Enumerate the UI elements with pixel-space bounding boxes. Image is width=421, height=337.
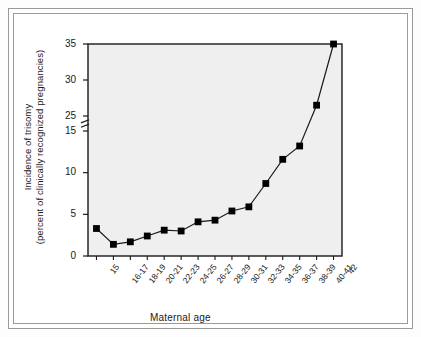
- y-axis-tick-label-30: 30: [50, 74, 76, 85]
- y-axis-tick-label-10: 10: [50, 166, 76, 177]
- data-point-15: 15: 3.3: [93, 225, 100, 232]
- data-point-18-19: 18-19: 1.7: [127, 238, 134, 245]
- data-point-36-37: 36-37: 11.6: [279, 156, 286, 163]
- data-point-22-23: 22-23: 3.1: [161, 227, 168, 234]
- data-point-34-35: 34-35: 8.7: [262, 180, 269, 187]
- data-point-40-41: 40-41: 26.5: [313, 102, 320, 109]
- data-point-30-31: 30-31: 5.4: [229, 208, 236, 215]
- y-axis-tick-label-0: 0: [50, 250, 76, 261]
- y-axis-tick-label-25: 25: [50, 110, 76, 121]
- y-axis-tick-label-15: 15: [50, 125, 76, 136]
- data-point-32-33: 32-33: 5.9: [245, 203, 252, 210]
- y-axis-tick-label-35: 35: [50, 38, 76, 49]
- figure-root: 15: 3.316-17: 1.418-19: 1.720-21: 2.422-…: [0, 0, 421, 337]
- data-point-28-29: 28-29: 4.3: [212, 217, 219, 224]
- data-point-42: 42: 35: [330, 41, 337, 48]
- data-point-38-39: 38-39: 13.2: [296, 143, 303, 150]
- data-point-16-17: 16-17: 1.4: [110, 241, 117, 248]
- plot-area-background: [88, 44, 342, 256]
- x-axis-title: Maternal age: [150, 312, 211, 323]
- data-point-26-27: 26-27: 4.1: [195, 218, 202, 225]
- data-point-24-25: 24-25: 3: [178, 228, 185, 235]
- y-axis-ticks: [83, 44, 88, 256]
- data-point-20-21: 20-21: 2.4: [144, 233, 151, 240]
- y-axis-tick-label-5: 5: [50, 208, 76, 219]
